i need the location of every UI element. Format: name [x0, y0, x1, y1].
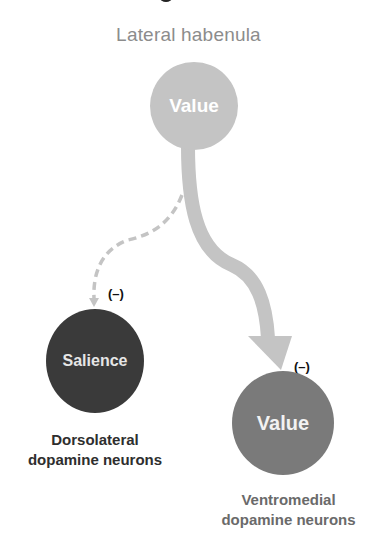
node-ventromedial-value: Value: [232, 371, 334, 475]
inhibitory-sign-dorsolateral: (–): [108, 286, 124, 301]
node-lateral-habenula-value: Value: [150, 62, 238, 150]
caption-line: dopamine neurons: [0, 450, 190, 470]
inhibitory-sign-ventromedial: (–): [294, 359, 310, 374]
dashed-arrow-head: [89, 298, 99, 307]
node-label: Value: [169, 95, 219, 117]
node-label: Value: [257, 412, 309, 435]
thick-arrow-head: [248, 336, 292, 370]
caption-line: Ventromedial: [200, 490, 377, 510]
caption-dorsolateral: Dorsolateral dopamine neurons: [0, 430, 190, 470]
thick-arrow-to-ventromedial: [188, 146, 268, 338]
caption-line: Dorsolateral: [0, 430, 190, 450]
caption-line: dopamine neurons: [200, 510, 377, 530]
dashed-arrow-to-dorsolateral: [94, 195, 182, 298]
node-dorsolateral-salience: Salience: [46, 309, 144, 413]
node-label: Salience: [63, 352, 128, 370]
caption-ventromedial: Ventromedial dopamine neurons: [200, 490, 377, 530]
